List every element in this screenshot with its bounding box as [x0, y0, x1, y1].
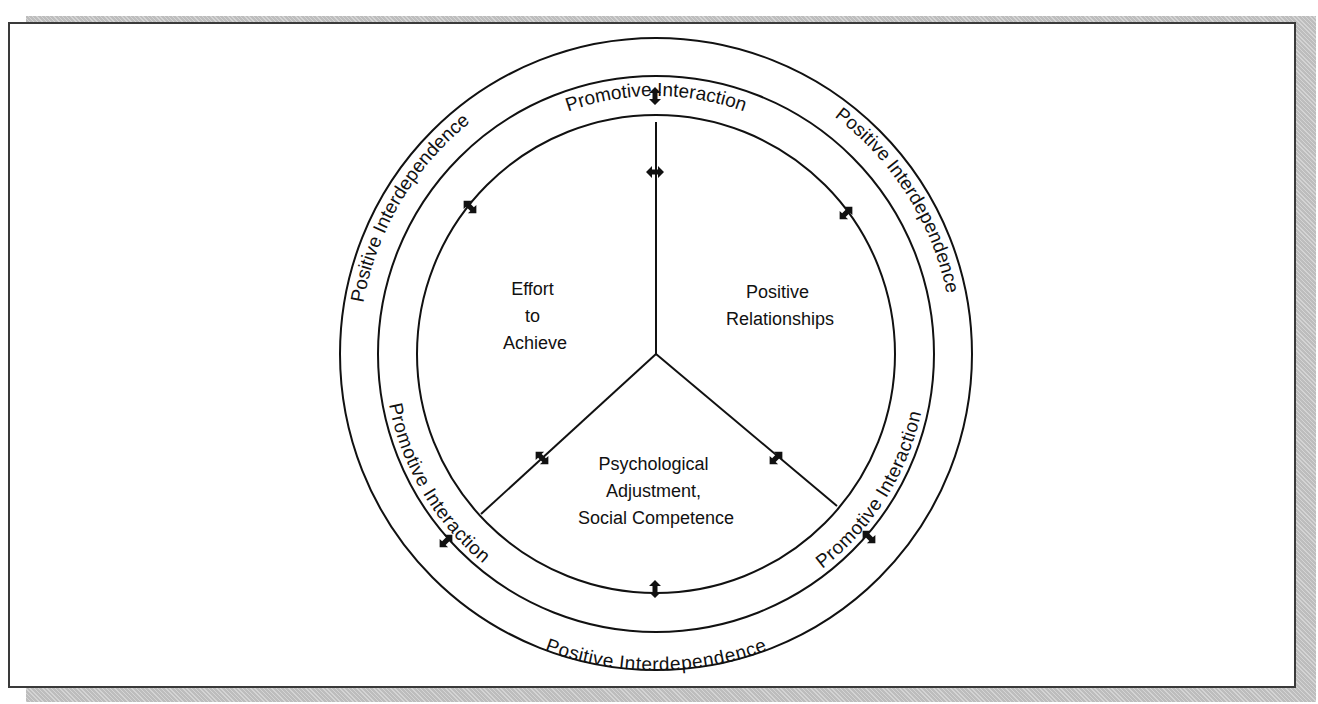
outer-label-top-left: Positive Interdependence	[347, 109, 473, 304]
outer-label-top-right: Positive Interdependence	[832, 103, 964, 295]
double-headed-arrow-icon	[649, 580, 661, 598]
outer-label-bottom: Positive Interdependence	[543, 634, 769, 674]
cycle-diagram: Positive Interdependence Positive Interd…	[0, 0, 1318, 704]
sector-bottom-label: Psychological Adjustment, Social Compete…	[578, 454, 734, 528]
middle-label-bottom-right: Promotive Interaction	[811, 409, 925, 572]
sector-left-label: Effort to Achieve	[503, 279, 567, 353]
double-headed-arrow-icon	[765, 447, 786, 468]
sector-right-label: Positive Relationships	[726, 282, 834, 329]
